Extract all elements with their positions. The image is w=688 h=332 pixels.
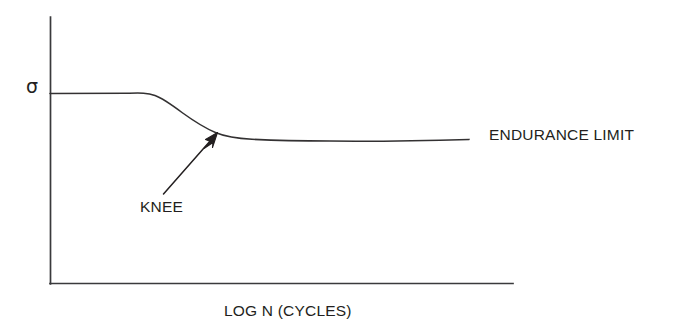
sn-curve-path: [50, 93, 469, 141]
chart-canvas: [0, 0, 688, 332]
x-axis-label: LOG N (CYCLES): [224, 302, 352, 320]
knee-arrow-head: [204, 133, 218, 149]
sn-curve-group: [50, 93, 469, 141]
endurance-limit-label: ENDURANCE LIMIT: [489, 126, 634, 144]
y-axis-label: σ: [26, 75, 38, 97]
knee-arrow-group: [164, 133, 218, 195]
axes-group: [50, 17, 513, 284]
knee-annotation-label: KNEE: [140, 198, 183, 216]
fatigue-curve-figure: σ KNEE ENDURANCE LIMIT LOG N (CYCLES): [0, 0, 688, 332]
